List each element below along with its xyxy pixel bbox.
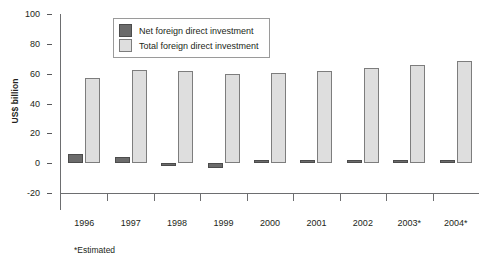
- bar-group: [433, 14, 479, 193]
- bar-total: [225, 74, 240, 163]
- x-axis-tick-label: 2002: [353, 218, 373, 228]
- x-axis-tick-label: 2003*: [398, 218, 422, 228]
- legend-swatch-net-icon: [119, 24, 132, 37]
- bar-net: [208, 163, 223, 167]
- x-axis-tick-label: 1998: [167, 218, 187, 228]
- x-axis-tick-label: 1999: [214, 218, 234, 228]
- x-axis-tick-mark: [154, 194, 155, 201]
- legend-label-total: Total foreign direct investment: [139, 41, 259, 51]
- y-axis-tick-mark: [47, 163, 52, 164]
- y-axis-tick-mark: [47, 14, 52, 15]
- bar-total: [85, 78, 100, 163]
- chart-footnote: *Estimated: [74, 245, 115, 255]
- chart-legend: Net foreign direct investment Total fore…: [113, 18, 270, 58]
- x-axis-tick-mark: [293, 194, 294, 201]
- bar-net: [393, 160, 408, 163]
- bar-group: [386, 14, 432, 193]
- x-axis-tick-mark: [340, 194, 341, 201]
- y-axis-tick-mark: [47, 133, 52, 134]
- y-axis-title: US$ billion: [10, 66, 20, 136]
- x-axis-tick-label: 1996: [74, 218, 94, 228]
- x-axis-tick-mark: [433, 194, 434, 201]
- y-axis-tick-label: 100: [25, 9, 40, 19]
- y-axis-tick-mark: [47, 74, 52, 75]
- bar-total: [457, 61, 472, 163]
- y-axis-tick-label: 40: [30, 99, 40, 109]
- bar-total: [132, 70, 147, 163]
- y-axis-tick-mark: [47, 104, 52, 105]
- y-axis-tick-label: -20: [27, 188, 40, 198]
- x-axis-tick-label: 2000: [260, 218, 280, 228]
- x-axis-tick-label: 2001: [306, 218, 326, 228]
- x-axis-tick-mark: [247, 194, 248, 201]
- bar-total: [178, 71, 193, 163]
- y-axis-tick-label: 20: [30, 128, 40, 138]
- y-axis-tick-label: 80: [30, 39, 40, 49]
- y-axis-tick-mark: [47, 193, 52, 194]
- bar-net: [115, 157, 130, 163]
- x-axis-tick-label: 1997: [121, 218, 141, 228]
- y-axis-tick-mark: [47, 44, 52, 45]
- y-axis-tick-labels: -20020406080100: [26, 14, 52, 210]
- legend-swatch-total-icon: [119, 39, 132, 52]
- legend-label-net: Net foreign direct investment: [139, 26, 254, 36]
- x-axis-tick-mark: [386, 194, 387, 201]
- legend-entry-total: Total foreign direct investment: [119, 38, 259, 53]
- bar-net: [300, 160, 315, 163]
- bar-total: [410, 65, 425, 163]
- x-axis-tick-labels: 19961997199819992000200120022003*2004*: [61, 218, 479, 232]
- bar-group: [61, 14, 107, 193]
- bar-total: [271, 73, 286, 163]
- bar-total: [364, 68, 379, 163]
- bar-net: [68, 154, 83, 163]
- bar-group: [340, 14, 386, 193]
- y-axis-tick-label: 60: [30, 69, 40, 79]
- bar-net: [254, 160, 269, 163]
- x-axis-tick-mark: [200, 194, 201, 201]
- bar-net: [161, 163, 176, 166]
- bar-group: [293, 14, 339, 193]
- bar-chart-figure: US$ billion -20020406080100 199619971998…: [0, 0, 498, 275]
- x-axis-tick-label: 2004*: [444, 218, 468, 228]
- x-axis-tick-marks: [61, 194, 479, 202]
- bar-total: [317, 71, 332, 163]
- legend-entry-net: Net foreign direct investment: [119, 23, 259, 38]
- bar-net: [440, 160, 455, 163]
- bar-net: [347, 160, 362, 163]
- y-axis-tick-label: 0: [35, 158, 40, 168]
- x-axis-tick-mark: [107, 194, 108, 201]
